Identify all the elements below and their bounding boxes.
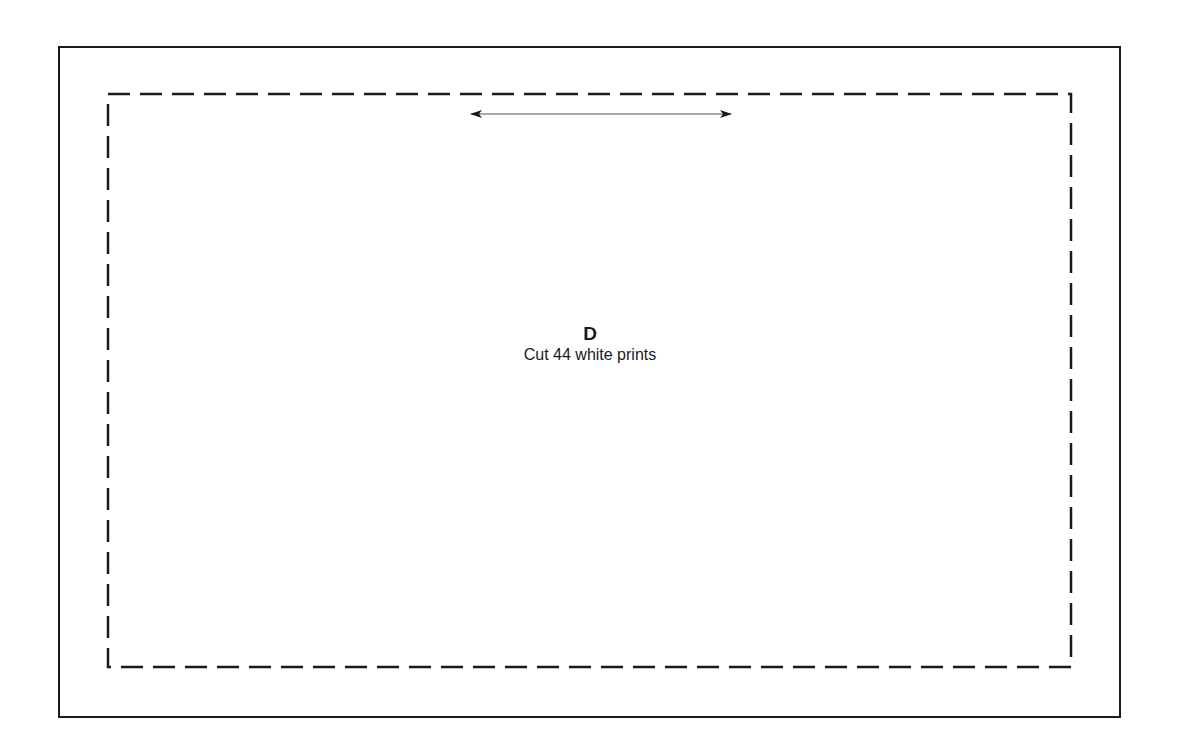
- cutting-instruction: Cut 44 white prints: [490, 345, 690, 365]
- pattern-lines: [0, 0, 1177, 746]
- piece-letter: D: [490, 323, 690, 345]
- pattern-piece-label: D Cut 44 white prints: [490, 323, 690, 365]
- seam-allowance-dashed-line: [108, 94, 1071, 667]
